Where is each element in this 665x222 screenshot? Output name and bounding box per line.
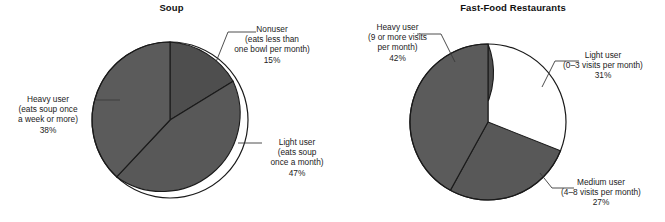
label-ffr-heavy-percent: 42% <box>345 53 450 63</box>
label-ffr-light-percent: 31% <box>541 70 665 80</box>
label-soup-heavy-percent: 38% <box>0 125 96 135</box>
label-ffr-light-qual: (0–3 visits per month) <box>541 60 665 70</box>
label-ffr-light: Light user (0–3 visits per month) 31% <box>541 50 665 81</box>
label-ffr-medium: Medium user (4–8 visits per month) 27% <box>537 177 665 208</box>
label-soup-light-name: Light user <box>253 137 341 147</box>
label-ffr-heavy-qual-2: per month) <box>345 42 450 52</box>
label-soup-nonuser-qual-1: (eats less than <box>212 34 332 44</box>
label-soup-light: Light user (eats soup once a month) 47% <box>253 137 341 178</box>
label-soup-nonuser-name: Nonuser <box>212 24 332 34</box>
label-ffr-light-name: Light user <box>541 50 665 60</box>
two-pie-chart-figure: Soup Nonuser (eats less than one bowl pe… <box>0 0 665 222</box>
label-soup-light-qual-1: (eats soup <box>253 147 341 157</box>
label-soup-nonuser-percent: 15% <box>212 55 332 65</box>
label-ffr-heavy-name: Heavy user <box>345 22 450 32</box>
label-ffr-heavy: Heavy user (9 or more visits per month) … <box>345 22 450 63</box>
label-soup-light-percent: 47% <box>253 168 341 178</box>
label-soup-heavy-qual-2: a week or more) <box>0 114 96 124</box>
label-ffr-medium-percent: 27% <box>537 197 665 207</box>
label-soup-nonuser: Nonuser (eats less than one bowl per mon… <box>212 24 332 65</box>
label-soup-heavy-qual-1: (eats soup once <box>0 104 96 114</box>
pie-panel-fast-food: Fast-Food Restaurants Heavy user (9 or m… <box>333 0 665 222</box>
label-soup-heavy: Heavy user (eats soup once a week or mor… <box>0 94 96 135</box>
label-soup-heavy-name: Heavy user <box>0 94 96 104</box>
label-ffr-medium-name: Medium user <box>537 177 665 187</box>
pie-panel-soup: Soup Nonuser (eats less than one bowl pe… <box>0 0 333 222</box>
label-ffr-medium-qual: (4–8 visits per month) <box>537 187 665 197</box>
label-soup-nonuser-qual-2: one bowl per month) <box>212 44 332 54</box>
label-ffr-heavy-qual-1: (9 or more visits <box>345 32 450 42</box>
label-soup-light-qual-2: once a month) <box>253 157 341 167</box>
